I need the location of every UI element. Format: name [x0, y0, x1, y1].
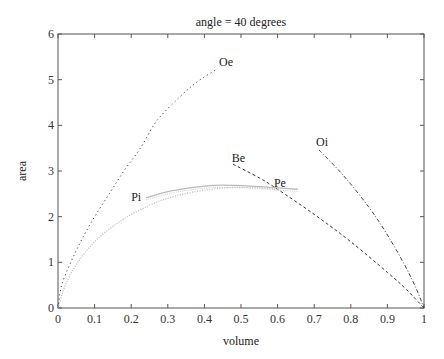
x-tick-label: 0: [55, 312, 61, 326]
x-axis-label: volume: [223, 334, 259, 348]
series-group: [58, 69, 424, 308]
chart: angle = 40 degrees 00.10.20.30.40.50.60.…: [0, 0, 444, 359]
x-tick-label: 0.6: [270, 312, 285, 326]
y-axis: 0123456: [48, 27, 424, 315]
y-tick-label: 1: [48, 255, 54, 269]
curve-label-oi: Oi: [316, 135, 329, 149]
x-tick-label: 0.7: [307, 312, 322, 326]
y-tick-label: 2: [48, 210, 54, 224]
y-tick-label: 6: [48, 27, 54, 41]
x-tick-label: 1: [421, 312, 427, 326]
curve-label-pi: Pi: [131, 190, 142, 204]
curve-label-pe: Pe: [274, 176, 286, 190]
y-axis-label: area: [15, 160, 29, 181]
curve-label-oe: Oe: [219, 55, 233, 69]
x-axis: 00.10.20.30.40.50.60.70.80.91: [55, 34, 427, 326]
y-tick-label: 4: [48, 118, 54, 132]
x-tick-label: 0.8: [343, 312, 358, 326]
series-oi: [319, 150, 424, 308]
curve-label-be: Be: [232, 151, 245, 165]
x-tick-label: 0.5: [234, 312, 249, 326]
chart-title: angle = 40 degrees: [196, 15, 287, 29]
series-pe: [58, 187, 278, 308]
series-oe: [58, 69, 217, 308]
y-tick-label: 5: [48, 73, 54, 87]
y-tick-label: 0: [48, 301, 54, 315]
plot-frame: [58, 34, 424, 308]
y-tick-label: 3: [48, 164, 54, 178]
series-be: [233, 164, 424, 308]
x-tick-label: 0.2: [124, 312, 139, 326]
x-tick-label: 0.9: [380, 312, 395, 326]
x-tick-label: 0.1: [87, 312, 102, 326]
curve-labels: OeBeOiPiPe: [131, 55, 328, 204]
x-tick-label: 0.4: [197, 312, 212, 326]
x-tick-label: 0.3: [160, 312, 175, 326]
